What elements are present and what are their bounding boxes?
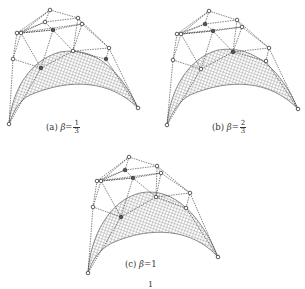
caption-c-label: (c)	[125, 259, 136, 269]
figure-bezier-surfaces: (a) β=13	[0, 0, 305, 289]
caption-c-value: 1	[151, 259, 156, 269]
page-number: 1	[148, 280, 153, 289]
caption-c: (c) β=1	[125, 259, 157, 269]
panel-c-surface-plot	[0, 0, 305, 289]
